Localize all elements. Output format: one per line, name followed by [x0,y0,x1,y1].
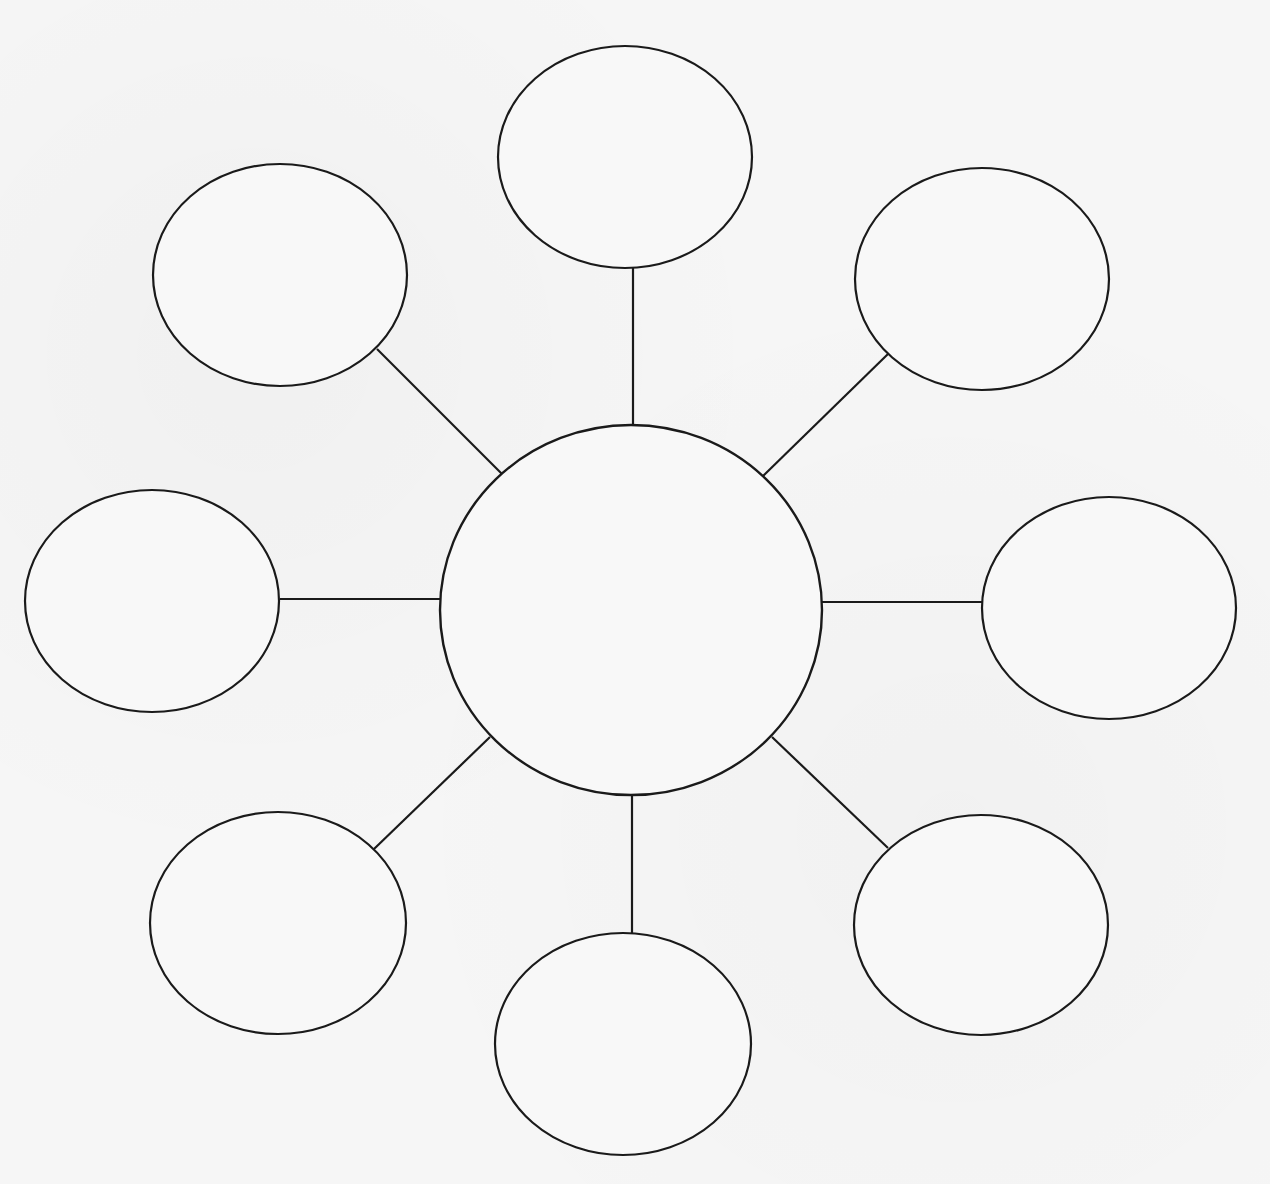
satellite-node-right[interactable] [982,497,1236,719]
satellite-node-bottom[interactable] [495,933,751,1155]
connector-line-upper-right [763,354,888,476]
bubble-map-diagram [0,0,1270,1184]
diagram-canvas [0,0,1270,1184]
satellite-node-lower-right[interactable] [854,815,1108,1035]
satellite-bubble-top[interactable] [498,46,752,268]
satellite-node-upper-right[interactable] [855,168,1109,390]
satellite-bubble-upper-left[interactable] [153,164,407,386]
connector-line-lower-right [772,737,888,848]
satellite-bubble-lower-left[interactable] [150,812,406,1034]
satellite-node-upper-left[interactable] [153,164,407,386]
satellite-bubble-bottom[interactable] [495,933,751,1155]
center-node-group [440,425,822,795]
satellite-bubble-left[interactable] [25,490,279,712]
satellite-node-lower-left[interactable] [150,812,406,1034]
satellite-node-left[interactable] [25,490,279,712]
satellite-bubble-right[interactable] [982,497,1236,719]
center-bubble[interactable] [440,425,822,795]
satellite-bubble-upper-right[interactable] [855,168,1109,390]
satellite-bubble-lower-right[interactable] [854,815,1108,1035]
satellite-node-top[interactable] [498,46,752,268]
connector-line-lower-left [374,737,490,849]
connector-line-upper-left [377,349,502,474]
